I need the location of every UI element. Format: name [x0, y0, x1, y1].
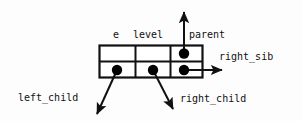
- pointer-label-right-sib: right_sib: [219, 51, 273, 62]
- field-label-parent: parent: [189, 29, 225, 40]
- field-label-e: e: [113, 29, 119, 40]
- pointer-label-right-child: right_child: [180, 93, 246, 104]
- pointer-dot-parent: [179, 48, 189, 58]
- pointer-dot-left-child: [112, 65, 122, 75]
- pointer-dot-right-sib: [179, 65, 189, 75]
- pointer-label-left-child: left_child: [18, 92, 78, 103]
- pointer-dot-right-child: [148, 65, 158, 75]
- field-label-level: level: [133, 29, 163, 40]
- node-structure-diagram: e level parent right_sib left_child righ…: [0, 0, 302, 121]
